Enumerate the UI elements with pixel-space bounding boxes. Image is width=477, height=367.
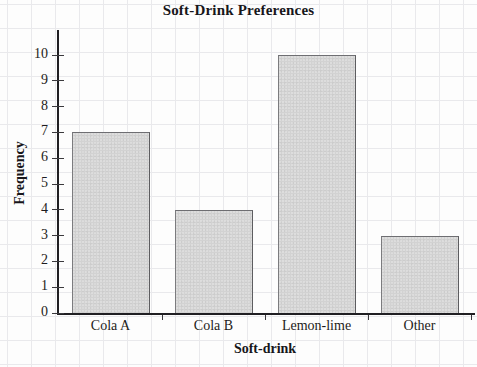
y-axis-tick-label-wrap: 2 — [14, 253, 48, 267]
y-axis-title: Frequency — [12, 113, 28, 233]
bar — [175, 210, 253, 313]
x-axis-line — [57, 313, 475, 315]
y-axis-tick-label-wrap: 9 — [14, 73, 48, 87]
x-axis-category-label: Cola A — [59, 318, 162, 334]
x-axis-category-label: Other — [368, 318, 471, 334]
bars-layer — [59, 55, 471, 313]
bar — [72, 132, 150, 313]
chart-title: Soft-Drink Preferences — [0, 2, 477, 19]
y-axis-tick-label: 10 — [20, 47, 48, 61]
y-axis-tick-label: 9 — [20, 73, 48, 87]
y-axis-tick-label-wrap: 1 — [14, 279, 48, 293]
y-axis-tick-label: 1 — [20, 279, 48, 293]
x-axis-category-label: Lemon-lime — [265, 318, 368, 334]
x-axis-category-label: Cola B — [162, 318, 265, 334]
bar — [278, 55, 356, 313]
y-axis-tick-label-wrap: 0 — [14, 305, 48, 319]
y-axis-tick-label: 8 — [20, 99, 48, 113]
x-axis-tick — [471, 315, 472, 320]
bar — [381, 236, 459, 313]
y-axis-tick-label: 2 — [20, 253, 48, 267]
y-axis-tick-label-wrap: 8 — [14, 99, 48, 113]
bar-chart-figure: Soft-Drink Preferences 012345678910 Cola… — [0, 0, 477, 367]
x-axis-title: Soft-drink — [59, 341, 471, 357]
y-axis-tick-label: 0 — [20, 305, 48, 319]
y-axis-tick-label-wrap: 10 — [14, 47, 48, 61]
